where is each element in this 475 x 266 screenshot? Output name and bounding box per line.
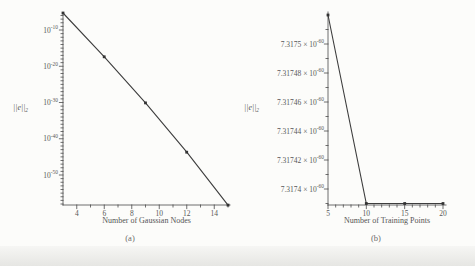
y-tick-label: 10-20: [43, 61, 58, 71]
x-tick-label: 14: [211, 209, 219, 218]
data-point-marker: [442, 202, 445, 205]
plot-b-x-axis-title: Number of Training Points: [344, 216, 430, 225]
y-tick-label: 10-10: [43, 24, 58, 34]
y-tick-label: 7.3174 × 10-60: [281, 183, 325, 193]
data-point-marker: [103, 55, 106, 58]
x-tick-label: 20: [439, 209, 447, 218]
data-point-marker: [144, 102, 147, 105]
y-tick-label: 7.31742 × 10-60: [277, 154, 324, 164]
x-tick-label: 5: [326, 209, 330, 218]
series-line: [63, 13, 228, 205]
subfigure-a-caption: (a): [116, 233, 144, 243]
y-tick-label: 7.31746 × 10-60: [277, 96, 324, 106]
subfigure-b-caption: (b): [362, 233, 390, 243]
y-tick-label: 10-50: [43, 169, 58, 179]
plot-a-error-vs-gaussian-nodes: 46810121410-1010-2010-3010-4010-50||e||2: [13, 12, 230, 218]
y-tick-label: 10-40: [43, 133, 58, 143]
y-tick-label: 7.31744 × 10-60: [277, 125, 324, 135]
plot-b-error-vs-training-points: 51015207.3175 × 10-607.31748 × 10-607.31…: [244, 12, 447, 218]
y-tick-label: 7.31748 × 10-60: [277, 67, 324, 77]
y-tick-label: 7.3175 × 10-60: [281, 38, 325, 48]
figure-canvas: 46810121410-1010-2010-3010-4010-50||e||2…: [0, 0, 475, 266]
data-point-marker: [185, 151, 188, 154]
page-scan-shadow: [0, 246, 475, 266]
plot-a-y-axis-title: ||e||2: [13, 103, 28, 113]
data-point-marker: [227, 204, 230, 207]
data-point-marker: [327, 14, 330, 17]
scanned-figure-page: 46810121410-1010-2010-3010-4010-50||e||2…: [0, 0, 475, 266]
y-tick-label: 10-30: [43, 97, 58, 107]
series-line: [328, 15, 443, 204]
plot-a-x-axis-title: Number of Gaussian Nodes: [102, 216, 191, 225]
plot-b-y-axis-title: ||e||2: [244, 103, 259, 113]
data-point-marker: [62, 12, 65, 15]
x-tick-label: 4: [75, 209, 79, 218]
data-point-marker: [403, 202, 406, 205]
data-point-marker: [365, 202, 368, 205]
